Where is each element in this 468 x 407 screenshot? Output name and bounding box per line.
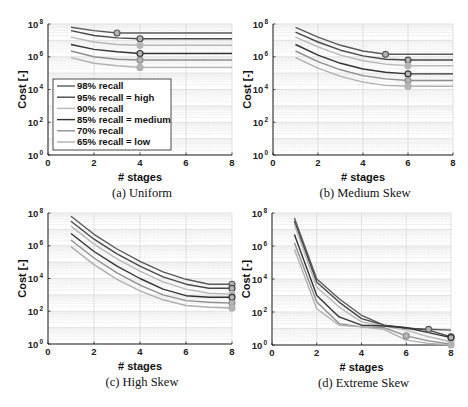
y-tick-label: 102 (252, 306, 268, 318)
x-tick-label: 8 (229, 346, 234, 357)
x-axis-label: # stages (339, 361, 383, 373)
y-tick-label: 106 (253, 50, 269, 62)
x-tick-label: 2 (91, 157, 96, 168)
y-tick-label: 102 (253, 116, 269, 128)
y-tick-label: 108 (28, 18, 44, 30)
optimum-marker (114, 30, 120, 36)
y-tick-label: 102 (28, 305, 44, 317)
x-tick-label: 2 (314, 347, 319, 358)
figure-canvas: 02468100102104106108# stagesCost [-](a) … (0, 0, 468, 407)
legend-label: 95% recall = high (77, 92, 155, 103)
y-tick-label: 106 (28, 50, 44, 62)
x-axis-label: # stages (118, 360, 162, 372)
x-tick-label: 6 (404, 347, 409, 358)
optimum-marker (405, 57, 411, 63)
panel-caption: (a) Uniform (112, 186, 172, 200)
optimum-marker (405, 63, 411, 69)
y-tick-label: 100 (28, 338, 44, 350)
x-tick-label: 2 (315, 157, 320, 168)
optimum-marker (137, 50, 143, 56)
x-tick-label: 8 (229, 157, 234, 168)
optimum-marker (405, 83, 411, 89)
chart-panel-high-skew: 02468100102104106108# stagesCost [-](c) … (16, 207, 235, 390)
y-tick-label: 108 (253, 18, 269, 30)
y-axis-label: Cost [-] (240, 259, 252, 298)
x-tick-label: 4 (360, 157, 366, 168)
x-tick-label: 0 (269, 347, 274, 358)
y-axis-label: Cost [-] (241, 70, 253, 109)
y-tick-label: 106 (28, 239, 44, 251)
chart-panel-extreme-skew: 02468100102104106108# stagesCost [-](d) … (240, 207, 454, 391)
y-axis-label: Cost [-] (16, 70, 28, 109)
y-tick-label: 100 (252, 339, 268, 351)
y-tick-label: 100 (28, 149, 44, 161)
y-tick-label: 104 (28, 83, 44, 95)
y-axis-label: Cost [-] (16, 259, 28, 298)
y-tick-label: 108 (252, 207, 268, 219)
x-tick-label: 4 (137, 157, 143, 168)
optimum-marker (137, 57, 143, 63)
x-tick-label: 0 (45, 157, 50, 168)
x-tick-label: 4 (137, 346, 143, 357)
optimum-marker (405, 71, 411, 77)
legend: 98% recall95% recall = high90% recall85%… (53, 79, 171, 150)
panel-caption: (b) Medium Skew (320, 186, 411, 200)
y-tick-label: 104 (28, 272, 44, 284)
legend-label: 70% recall (77, 125, 123, 136)
optimum-marker (229, 294, 235, 300)
optimum-marker (137, 36, 143, 42)
x-axis-label: # stages (341, 171, 385, 183)
x-tick-label: 0 (270, 157, 275, 168)
x-tick-label: 8 (450, 157, 455, 168)
optimum-marker (383, 51, 389, 57)
y-tick-label: 108 (28, 207, 44, 219)
optimum-marker (448, 335, 454, 341)
x-tick-label: 6 (183, 346, 188, 357)
optimum-marker (448, 342, 454, 348)
optimum-marker (403, 333, 409, 339)
legend-label: 90% recall (77, 103, 123, 114)
x-tick-label: 4 (359, 347, 365, 358)
legend-label: 98% recall (77, 80, 123, 91)
optimum-marker (405, 77, 411, 83)
x-tick-label: 2 (91, 346, 96, 357)
y-tick-label: 104 (253, 83, 269, 95)
y-tick-label: 100 (253, 149, 269, 161)
y-tick-label: 102 (28, 116, 44, 128)
y-tick-label: 106 (252, 240, 268, 252)
panel-caption: (d) Extreme Skew (318, 376, 409, 390)
panel-caption: (c) High Skew (106, 375, 179, 389)
legend-label: 85% recall = medium (77, 114, 171, 125)
y-tick-label: 104 (252, 273, 268, 285)
x-tick-label: 6 (405, 157, 410, 168)
optimum-marker (229, 305, 235, 311)
chart-panel-medium-skew: 02468100102104106108# stagesCost [-](b) … (241, 18, 456, 201)
optimum-marker (229, 285, 235, 291)
optimum-marker (137, 64, 143, 70)
legend-label: 65% recall = low (77, 136, 151, 147)
x-tick-label: 0 (45, 346, 50, 357)
optimum-marker (426, 326, 432, 332)
x-axis-label: # stages (118, 171, 162, 183)
optimum-marker (137, 42, 143, 48)
x-tick-label: 8 (448, 347, 453, 358)
x-tick-label: 6 (183, 157, 188, 168)
